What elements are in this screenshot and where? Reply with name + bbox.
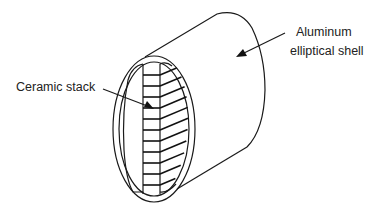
stack-layer-side bbox=[160, 87, 185, 97]
stack-layer-side bbox=[160, 118, 188, 130]
stack-layer-side bbox=[160, 129, 188, 141]
ceramic-stack bbox=[124, 63, 188, 194]
stack-layer-side bbox=[160, 165, 181, 174]
stack-layer-side bbox=[160, 107, 188, 119]
stack-layer-side bbox=[160, 179, 175, 185]
stack-left-cap bbox=[124, 64, 144, 192]
shell-top-edge bbox=[145, 13, 265, 147]
shell-label-line2: elliptical shell bbox=[290, 44, 364, 58]
shell-bottom-edge bbox=[177, 147, 247, 189]
shell-label-line1: Aluminum bbox=[296, 25, 352, 39]
shell-outer-ellipse bbox=[113, 56, 195, 202]
stack-layer-side bbox=[160, 153, 184, 163]
stack-layer-side bbox=[160, 141, 186, 152]
ceramic-stack-label: Ceramic stack bbox=[16, 80, 96, 94]
ceramic-stack-arrow bbox=[103, 89, 154, 109]
diagram: Ceramic stack Aluminum elliptical shell bbox=[0, 0, 379, 210]
shell-inner-ellipse bbox=[119, 62, 189, 196]
stack-layer-side bbox=[160, 97, 187, 108]
